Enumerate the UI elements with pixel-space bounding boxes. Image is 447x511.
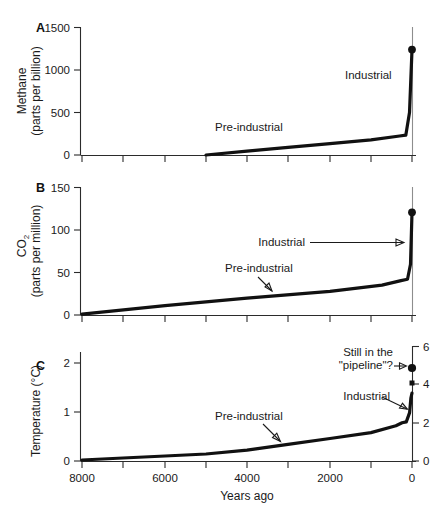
panel-b-y-ticks	[74, 188, 81, 316]
panel-c-annotation-pre-industrial: Pre-industrial	[215, 410, 283, 422]
panel-c-y2-ticks	[413, 347, 420, 462]
panel-c-xtick-4000: 4000	[234, 472, 260, 484]
panel-c-y2tick-4: 4	[423, 378, 430, 390]
panel-b-x-ticks	[82, 316, 412, 323]
panel-c-projected-upper-point	[408, 364, 416, 372]
panel-c-xtick-0: 0	[409, 472, 415, 484]
climate-figure: A 1500 1000 500 0 Methane (parts per bil…	[0, 0, 447, 511]
panel-c-xtick-6000: 6000	[152, 472, 178, 484]
panel-c-y2tick-0: 0	[423, 455, 429, 467]
panel-a-annotation-pre-industrial: Pre-industrial	[215, 121, 283, 133]
panel-b-ylabel-line2: (parts per million)	[29, 205, 43, 298]
panel-c-x-ticks	[82, 462, 412, 469]
panel-c-data-curve	[82, 393, 412, 460]
panel-a-ylabel-line2: (parts per billion)	[29, 46, 43, 135]
panel-c-ytick-2: 2	[64, 357, 70, 369]
panel-a: A 1500 1000 500 0 Methane (parts per bil…	[15, 21, 416, 162]
panel-b-annotation-industrial: Industrial	[258, 236, 305, 248]
figure-canvas: A 1500 1000 500 0 Methane (parts per bil…	[0, 0, 447, 511]
panel-c-annotation-pipeline-line1: Still in the	[343, 346, 393, 358]
panel-a-ytick-1000: 1000	[44, 64, 70, 76]
panel-b-ytick-100: 100	[51, 224, 70, 236]
panel-c-y2tick-6: 6	[423, 341, 429, 353]
panel-a-annotation-industrial: Industrial	[345, 69, 392, 81]
panel-c-xtick-8000: 8000	[69, 472, 95, 484]
panel-c-y2tick-2: 2	[423, 417, 429, 429]
panel-a-end-point	[408, 46, 416, 54]
panel-b-annotation-pre-industrial: Pre-industrial	[225, 262, 293, 274]
panel-b-ytick-150: 150	[51, 182, 70, 194]
panel-a-x-ticks	[82, 156, 412, 163]
panel-a-ytick-0: 0	[64, 149, 70, 161]
panel-c-annotation-pipeline-line2: "pipeline"?	[339, 359, 393, 371]
panel-a-ylabel-line1: Methane	[15, 67, 29, 114]
panel-c-y-ticks	[74, 363, 81, 461]
panel-c-ytick-0: 0	[64, 455, 70, 467]
panel-b-letter: B	[36, 181, 45, 195]
panel-c-industrial-arrowhead	[400, 403, 408, 409]
panel-b: B 150 100 50 0 CO2 (parts per million)	[15, 181, 416, 322]
panel-c: C 2 1 0 Temperature (°C) 6 4 2 0	[29, 341, 430, 504]
panel-c-ylabel: Temperature (°C)	[29, 365, 43, 457]
panel-b-end-point	[408, 208, 416, 216]
panel-a-y-ticks	[74, 28, 81, 156]
panel-c-annotation-industrial: Industrial	[343, 390, 390, 402]
panel-c-xtick-2000: 2000	[317, 472, 343, 484]
panel-c-industrial-leader	[382, 397, 407, 409]
panel-a-ytick-500: 500	[51, 107, 70, 119]
panel-a-ytick-1500: 1500	[44, 22, 70, 34]
panel-b-ytick-50: 50	[57, 267, 70, 279]
panel-a-data-curve	[206, 50, 412, 155]
panel-c-ytick-1: 1	[64, 406, 70, 418]
panel-c-projected-mid-point	[410, 381, 415, 386]
panel-c-xlabel: Years ago	[220, 489, 274, 503]
panel-c-pre-industrial-leader	[263, 424, 280, 441]
panel-b-ytick-0: 0	[64, 309, 70, 321]
